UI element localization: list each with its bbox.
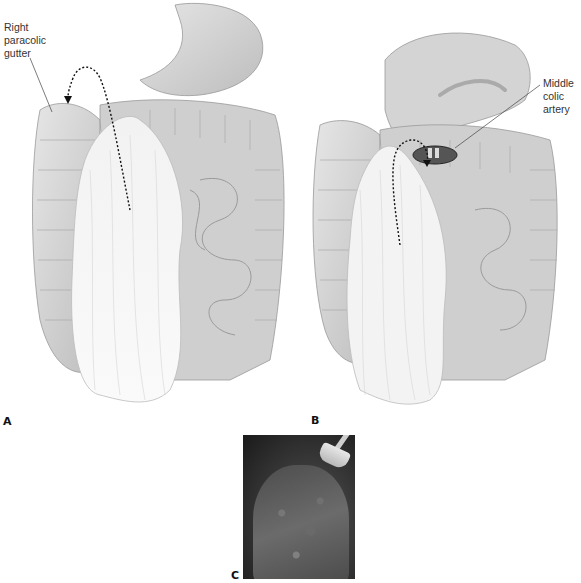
panel-label-a: A <box>3 415 12 428</box>
callout-right-paracolic-gutter: Right paracolic gutter <box>4 21 46 60</box>
callout-leader-a <box>30 58 52 112</box>
panel-label-c: C <box>231 569 239 582</box>
panel-c-intraoperative-photo <box>243 435 355 579</box>
panel-label-b: B <box>311 414 319 427</box>
panel-b-illustration <box>300 0 581 420</box>
panel-a-illustration <box>0 0 300 420</box>
omentum-tissue <box>253 465 349 579</box>
omentum-shape <box>72 116 183 402</box>
retractor-blade <box>317 442 352 471</box>
callout-middle-colic-artery: Middle colic artery <box>543 77 574 116</box>
stomach-shape <box>140 3 263 95</box>
